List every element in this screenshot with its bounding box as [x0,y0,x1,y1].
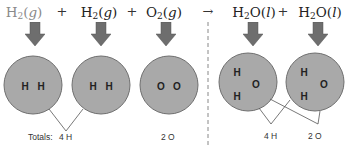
product-o-total: 2 O [308,131,322,141]
connector-line [49,109,83,131]
reactant-o-total: 2 O [161,132,175,142]
reactant-h-total: 4 H [59,132,72,142]
water-molecule-circle [286,53,344,111]
atom-label: H [37,81,44,92]
atom-label: H [233,67,240,78]
molecule-graphics [0,0,350,147]
product-h-total: 4 H [264,131,277,141]
atom-label: H [300,67,307,78]
atom-label: O [157,81,165,92]
atom-label: H [233,91,240,102]
oxygen-molecule-circle [140,56,198,114]
hydrogen-molecule-circle [72,56,130,114]
totals-prefix: Totals: [28,132,53,142]
reaction-diagram: H2(g) + H2(g) + O2(g) → H2O(l) + H2O(l) … [0,0,350,147]
atom-label: O [320,79,328,90]
atom-label: O [173,81,181,92]
hydrogen-molecule-circle [4,56,62,114]
atom-label: H [89,81,96,92]
atom-label: H [105,81,112,92]
atom-label: H [300,91,307,102]
atom-label: H [21,81,28,92]
water-molecule-circle [219,53,277,111]
atom-label: O [252,79,260,90]
